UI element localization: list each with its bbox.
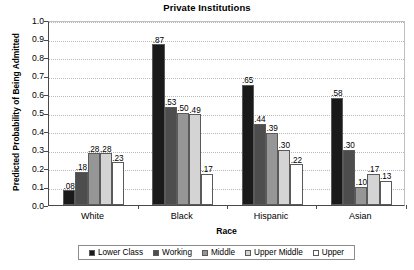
x-axis-tick-mark — [316, 205, 317, 209]
bar-value-label: .28 — [100, 145, 111, 154]
x-axis-title: Race — [48, 226, 405, 236]
bar-value-label: .53 — [165, 98, 176, 107]
x-axis-category-label: Asian — [316, 211, 405, 221]
plot-area: .08.18.28.28.23.87.53.50.49.17.65.44.39.… — [48, 21, 405, 206]
bar: .50 — [177, 113, 189, 206]
bar-group: .58.30.10.17.13 — [317, 22, 406, 205]
bar-group-bars: .87.53.50.49.17 — [138, 22, 227, 205]
bar: .17 — [367, 174, 379, 205]
legend-label: Upper Middle — [254, 248, 303, 257]
x-axis-tick-mark — [227, 205, 228, 209]
y-axis-tick-mark — [44, 206, 48, 207]
y-axis-title: Predicted Probability of Being Admitted — [11, 17, 21, 207]
bar: .30 — [343, 150, 355, 206]
x-axis-tick-mark — [138, 205, 139, 209]
legend-label: Upper — [322, 248, 344, 257]
bar-value-label: .28 — [88, 145, 99, 154]
bar-value-label: .87 — [153, 36, 164, 45]
bar-value-label: .17 — [202, 165, 213, 174]
bar-group: .87.53.50.49.17 — [138, 22, 227, 205]
chart-title: Private Institutions — [0, 2, 414, 13]
bar: .44 — [254, 124, 266, 205]
bar: .53 — [165, 107, 177, 205]
bar-value-label: .50 — [177, 104, 188, 113]
bar: .08 — [63, 190, 75, 205]
legend-swatch-icon — [89, 250, 95, 256]
chart-legend: Lower ClassWorkingMiddleUpper MiddleUppe… — [78, 245, 355, 260]
bar: .28 — [100, 153, 112, 205]
legend-item[interactable]: Middle — [202, 248, 235, 257]
bar: .39 — [266, 133, 278, 205]
bar-value-label: .30 — [343, 141, 354, 150]
legend-swatch-icon — [245, 250, 251, 256]
bar-value-label: .23 — [112, 154, 123, 163]
bar-group: .08.18.28.28.23 — [49, 22, 138, 205]
bar-group-bars: .08.18.28.28.23 — [49, 22, 138, 205]
bar-value-label: .30 — [279, 141, 290, 150]
bar-value-label: .22 — [291, 156, 302, 165]
legend-item[interactable]: Working — [153, 248, 192, 257]
legend-label: Lower Class — [98, 248, 143, 257]
x-axis-category-label: Hispanic — [227, 211, 316, 221]
x-axis-tick-mark — [406, 205, 407, 209]
bar-value-label: .17 — [368, 165, 379, 174]
bar: .22 — [290, 164, 302, 205]
bar: .10 — [355, 187, 367, 206]
legend-swatch-icon — [153, 250, 159, 256]
bar-value-label: .10 — [356, 178, 367, 187]
bar-value-label: .13 — [380, 172, 391, 181]
legend-item[interactable]: Upper Middle — [245, 248, 303, 257]
bar: .18 — [75, 172, 87, 205]
legend-swatch-icon — [202, 250, 208, 256]
legend-item[interactable]: Lower Class — [89, 248, 143, 257]
bar-value-label: .18 — [76, 163, 87, 172]
bar: .17 — [201, 174, 213, 205]
legend-item[interactable]: Upper — [313, 248, 344, 257]
legend-label: Middle — [211, 248, 235, 257]
bar-value-label: .44 — [254, 115, 265, 124]
bar: .28 — [88, 153, 100, 205]
bar-group-bars: .65.44.39.30.22 — [228, 22, 317, 205]
x-axis-category-label: White — [48, 211, 137, 221]
bar-chart: Private Institutions Predicted Probabili… — [0, 0, 414, 270]
bar-value-label: .65 — [242, 76, 253, 85]
bar: .65 — [242, 85, 254, 205]
legend-swatch-icon — [313, 250, 319, 256]
bar-group-bars: .58.30.10.17.13 — [317, 22, 406, 205]
legend-label: Working — [162, 248, 192, 257]
bar: .49 — [189, 114, 201, 205]
bar-value-label: .49 — [189, 106, 200, 115]
bar: .87 — [152, 44, 164, 205]
x-axis-category-label: Black — [137, 211, 226, 221]
bar: .58 — [331, 98, 343, 205]
bar-value-label: .08 — [64, 182, 75, 191]
bar: .13 — [380, 181, 392, 205]
bar: .23 — [112, 162, 124, 205]
bar-value-label: .58 — [331, 89, 342, 98]
bar-group: .65.44.39.30.22 — [228, 22, 317, 205]
bar-value-label: .39 — [266, 124, 277, 133]
bar: .30 — [278, 150, 290, 206]
